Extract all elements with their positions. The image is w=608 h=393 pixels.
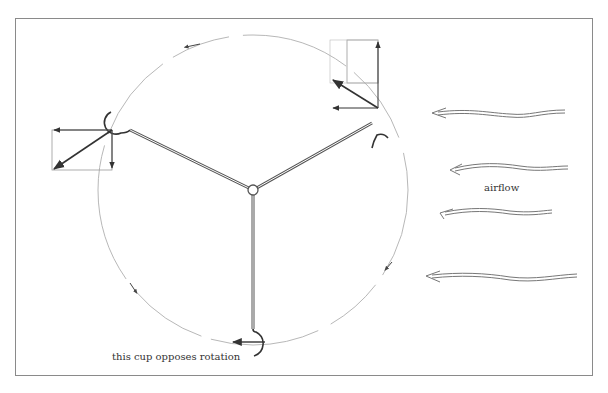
top-right-cup-force-vectors [330, 40, 378, 108]
airflow-arrow [432, 108, 565, 118]
airflow-arrows [426, 108, 577, 282]
anemometer-diagram [0, 0, 608, 393]
airflow-arrow [440, 209, 552, 220]
airflow-arrow [426, 271, 577, 282]
rotation-direction-arrows [130, 44, 392, 292]
hub [248, 185, 258, 195]
rotor-arms [130, 123, 372, 329]
airflow-arrow [450, 164, 568, 175]
top-right-cup [372, 134, 388, 148]
airflow-label: airflow [484, 182, 519, 193]
opposing-cup-label: this cup opposes rotation [112, 351, 240, 362]
